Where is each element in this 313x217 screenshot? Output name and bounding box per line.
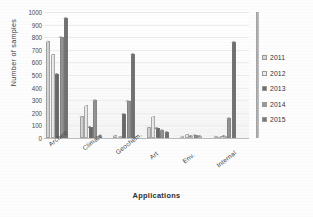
y-tick-label: 1000 <box>16 9 42 16</box>
legend-swatch <box>262 117 267 122</box>
y-tick-label: 400 <box>16 84 42 91</box>
bar-top-face <box>226 117 230 119</box>
x-tick-label: Art <box>148 149 159 160</box>
x-axis-title: Applications <box>0 191 313 200</box>
y-tick-label: 600 <box>16 59 42 66</box>
y-tick-label: 900 <box>16 21 42 28</box>
legend-label: 2011 <box>270 54 285 61</box>
bar-top-face <box>130 53 134 55</box>
bar-top-face <box>92 99 96 101</box>
bar <box>64 18 68 138</box>
legend-item: 2013 <box>262 81 310 97</box>
legend-swatch <box>262 86 267 91</box>
bar <box>84 105 88 138</box>
bar-top-face <box>83 104 87 106</box>
bar-chart-figure: Number of samples 0100200300400500600700… <box>0 0 313 217</box>
bar-top-face <box>78 115 82 117</box>
bar-top-face <box>230 41 234 43</box>
bar <box>147 127 151 138</box>
bar <box>165 132 169 138</box>
legend-swatch <box>262 102 267 107</box>
y-tick-label: 200 <box>16 109 42 116</box>
bar-top-face <box>121 113 125 115</box>
legend: 20112012201320142015 <box>262 50 310 128</box>
bar <box>227 118 231 138</box>
bar-top-face <box>125 100 129 102</box>
bar-top-face <box>49 53 53 55</box>
legend-label: 2014 <box>270 101 286 108</box>
bar <box>198 136 202 138</box>
bar <box>223 136 227 138</box>
bar-top-face <box>45 40 49 42</box>
bar <box>131 54 135 138</box>
legend-label: 2015 <box>270 116 286 123</box>
bar-top-face <box>183 133 187 135</box>
bar <box>118 136 122 138</box>
y-tick-label: 700 <box>16 46 42 53</box>
legend-divider <box>256 12 259 138</box>
legend-swatch <box>262 71 267 76</box>
bar <box>180 136 184 138</box>
bar <box>127 101 131 138</box>
bar-top-face <box>54 73 58 75</box>
x-tick-label: Internal <box>215 149 237 169</box>
bar-top-face <box>154 127 158 129</box>
y-tick-label: 100 <box>16 122 42 129</box>
bar-top-face <box>221 135 225 137</box>
bar <box>122 114 126 138</box>
legend-item: 2011 <box>262 50 310 66</box>
bar-top-face <box>192 134 196 136</box>
bar <box>55 74 59 138</box>
gridline <box>44 138 249 139</box>
bar-top-face <box>58 36 62 38</box>
bar-top-face <box>145 126 149 128</box>
bar-top-face <box>63 17 67 19</box>
y-axis-tick-labels: 01002003004005006007008009001000 <box>12 12 42 138</box>
bar-series-container <box>44 12 249 138</box>
bar <box>46 41 50 138</box>
bar <box>51 54 55 138</box>
bar <box>80 116 84 138</box>
legend-label: 2012 <box>270 70 286 77</box>
y-tick-label: 0 <box>16 135 42 142</box>
legend-item: 2014 <box>262 97 310 113</box>
bar <box>232 42 236 138</box>
bar-top-face <box>197 135 201 137</box>
y-tick-label: 300 <box>16 97 42 104</box>
bar-top-face <box>159 129 163 131</box>
legend-swatch <box>262 55 267 60</box>
legend-item: 2015 <box>262 112 310 128</box>
bar <box>160 130 164 138</box>
legend-item: 2012 <box>262 66 310 82</box>
bar-top-face <box>116 135 120 137</box>
bar <box>60 37 64 138</box>
legend-label: 2013 <box>270 85 286 92</box>
x-tick-label: Env. <box>181 151 196 165</box>
y-tick-label: 800 <box>16 34 42 41</box>
bar-top-face <box>150 115 154 117</box>
bar-top-face <box>163 131 167 133</box>
y-tick-label: 500 <box>16 72 42 79</box>
bar-top-face <box>87 126 91 128</box>
